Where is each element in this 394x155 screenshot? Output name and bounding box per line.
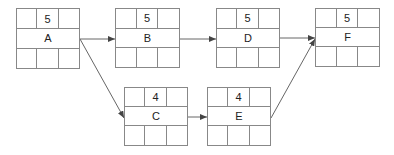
node-c-duration: 4 bbox=[145, 88, 166, 106]
node-c: 4 C bbox=[124, 87, 188, 146]
node-e-duration: 4 bbox=[228, 88, 249, 106]
node-d: 5 D bbox=[216, 8, 280, 68]
node-f-duration: 5 bbox=[337, 9, 358, 27]
node-f-label: F bbox=[316, 28, 379, 47]
node-f: 5 F bbox=[315, 8, 380, 67]
node-a-duration: 5 bbox=[37, 9, 58, 28]
node-d-label: D bbox=[217, 29, 279, 48]
node-a: 5 A bbox=[16, 8, 80, 69]
node-b: 5 B bbox=[115, 8, 180, 68]
node-a-label: A bbox=[17, 29, 79, 48]
node-b-label: B bbox=[116, 29, 179, 48]
node-c-label: C bbox=[125, 107, 187, 126]
node-d-duration: 5 bbox=[237, 9, 258, 28]
node-e-label: E bbox=[208, 107, 270, 126]
node-b-duration: 5 bbox=[137, 9, 158, 28]
node-e: 4 E bbox=[207, 87, 271, 146]
